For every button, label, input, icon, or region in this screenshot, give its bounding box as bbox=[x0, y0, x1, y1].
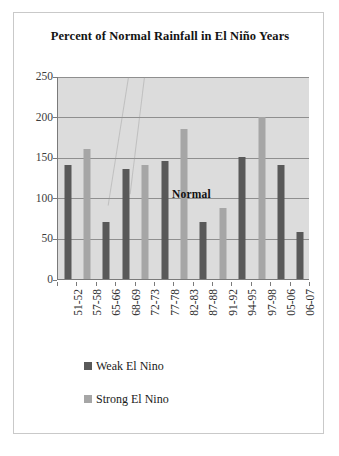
y-axis-tick-mark bbox=[53, 198, 57, 199]
x-axis-tick-mark bbox=[115, 282, 116, 286]
x-axis-tick-label: 77-78 bbox=[169, 289, 181, 316]
bar-51-52[interactable] bbox=[64, 165, 71, 279]
bar-slot bbox=[232, 77, 251, 279]
chart-page: Percent of Normal Rainfall in El Niño Ye… bbox=[0, 0, 339, 456]
x-axis-tick-mark bbox=[251, 282, 252, 286]
legend-swatch-icon bbox=[84, 362, 92, 370]
x-axis-tick-mark bbox=[76, 282, 77, 286]
y-axis-tick-mark bbox=[53, 280, 57, 281]
plot-area bbox=[57, 77, 309, 280]
bar-slot bbox=[136, 77, 155, 279]
x-axis-tick-mark bbox=[231, 282, 232, 286]
x-axis-tick-label: 68-69 bbox=[130, 289, 142, 316]
bar-slot bbox=[252, 77, 271, 279]
normal-annotation: Normal bbox=[172, 188, 211, 200]
y-axis-tick-label: 250 bbox=[19, 71, 53, 82]
bar-slot bbox=[116, 77, 135, 279]
bar-87-88[interactable] bbox=[200, 222, 207, 279]
bar-slot bbox=[77, 77, 96, 279]
y-axis-tick-mark bbox=[53, 239, 57, 240]
x-axis-tick-mark bbox=[270, 282, 271, 286]
x-axis-tick-label: 72-73 bbox=[149, 289, 161, 316]
x-axis-tick-label: 06-07 bbox=[304, 289, 316, 316]
bar-slot bbox=[97, 77, 116, 279]
bar-group bbox=[58, 77, 309, 279]
bar-05-06[interactable] bbox=[277, 165, 284, 279]
legend-item-weak[interactable]: Weak El Nino bbox=[84, 355, 284, 377]
legend-swatch-icon bbox=[84, 395, 92, 403]
x-axis-tick-mark bbox=[309, 282, 310, 286]
x-axis-tick-mark bbox=[154, 282, 155, 286]
y-axis-tick-label: 50 bbox=[19, 233, 53, 244]
y-axis-tick-mark bbox=[53, 117, 57, 118]
x-axis-tick-label: 82-83 bbox=[188, 289, 200, 316]
bar-97-98[interactable] bbox=[258, 117, 265, 279]
chart-title: Percent of Normal Rainfall in El Niño Ye… bbox=[30, 28, 310, 44]
x-axis-tick-label: 51-52 bbox=[72, 289, 84, 316]
y-axis-tick-mark bbox=[53, 158, 57, 159]
x-axis-tick-mark bbox=[57, 282, 58, 286]
x-axis-tick-mark bbox=[290, 282, 291, 286]
bar-91-92[interactable] bbox=[219, 208, 226, 279]
y-axis-tick-label: 100 bbox=[19, 193, 53, 204]
x-axis-tick-label: 65-66 bbox=[110, 289, 122, 316]
y-axis-tick-label: 200 bbox=[19, 112, 53, 123]
bar-06-07[interactable] bbox=[297, 232, 304, 279]
bar-77-78[interactable] bbox=[161, 161, 168, 279]
x-axis-tick-label: 91-92 bbox=[227, 289, 239, 316]
x-axis-tick-mark bbox=[96, 282, 97, 286]
bar-slot bbox=[155, 77, 174, 279]
bar-slot bbox=[174, 77, 193, 279]
bar-72-73[interactable] bbox=[142, 165, 149, 279]
x-axis-tick-mark bbox=[173, 282, 174, 286]
y-axis-tick-mark bbox=[53, 77, 57, 78]
legend-item-strong[interactable]: Strong El Nino bbox=[84, 388, 284, 410]
bar-68-69[interactable] bbox=[122, 169, 129, 279]
legend-label: Strong El Nino bbox=[96, 392, 169, 407]
x-axis: 51-5257-5865-6668-6972-7377-7882-8387-88… bbox=[57, 282, 309, 340]
y-axis-tick-label: 0 bbox=[19, 274, 53, 285]
bar-slot bbox=[271, 77, 290, 279]
bar-82-83[interactable] bbox=[180, 129, 187, 279]
x-axis-tick-label: 87-88 bbox=[207, 289, 219, 316]
bar-slot bbox=[58, 77, 77, 279]
x-axis-tick-label: 97-98 bbox=[266, 289, 278, 316]
x-axis-tick-label: 57-58 bbox=[91, 289, 103, 316]
bar-slot bbox=[291, 77, 310, 279]
x-axis-tick-label: 94-95 bbox=[246, 289, 258, 316]
bar-57-58[interactable] bbox=[84, 149, 91, 279]
y-axis-tick-label: 150 bbox=[19, 152, 53, 163]
bar-slot bbox=[194, 77, 213, 279]
x-axis-tick-mark bbox=[135, 282, 136, 286]
bar-65-66[interactable] bbox=[103, 222, 110, 279]
x-axis-tick-mark bbox=[193, 282, 194, 286]
bar-94-95[interactable] bbox=[239, 157, 246, 279]
chart-legend: Weak El NinoStrong El Nino bbox=[84, 355, 284, 421]
plot-area-wrapper bbox=[57, 77, 309, 280]
legend-label: Weak El Nino bbox=[96, 359, 164, 374]
x-axis-tick-label: 05-06 bbox=[285, 289, 297, 316]
x-axis-tick-mark bbox=[212, 282, 213, 286]
y-axis: 050100150200250 bbox=[15, 77, 53, 280]
bar-slot bbox=[213, 77, 232, 279]
